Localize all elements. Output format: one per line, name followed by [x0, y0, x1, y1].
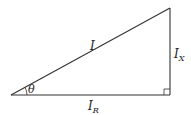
- right-angle-marker: [164, 89, 170, 95]
- vertical-label: IX: [173, 47, 185, 63]
- angle-theta-label: θ: [28, 83, 35, 96]
- phasor-triangle-diagram: θ I IX IR: [0, 0, 191, 115]
- hypotenuse-label: I: [89, 39, 95, 53]
- horizontal-label: IR: [87, 99, 99, 115]
- vertical-label-sub: X: [178, 54, 185, 63]
- horizontal-label-sub: R: [92, 106, 99, 115]
- angle-arc: [25, 87, 27, 95]
